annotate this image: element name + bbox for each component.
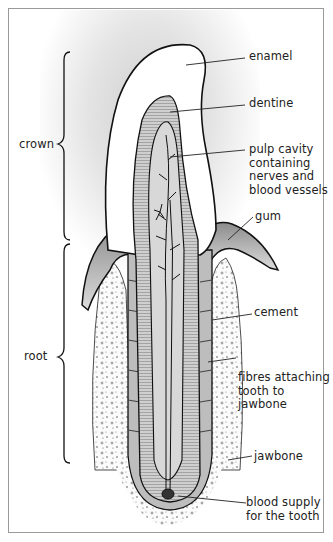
crown-label: crown [19, 138, 54, 152]
gum-label: gum [255, 210, 281, 224]
jawbone-label: jawbone [254, 450, 303, 464]
fibres-label: fibres attaching tooth to jawbone [238, 371, 330, 412]
cement-label: cement [254, 306, 298, 320]
enamel-label: enamel [249, 50, 292, 64]
pulp-label: pulp cavity containing nerves and blood … [249, 143, 328, 197]
dentine-label: dentine [249, 97, 293, 111]
blood-supply-label: blood supply for the tooth [246, 496, 321, 523]
blood-supply-entry [162, 489, 174, 499]
crown-brace [58, 52, 70, 240]
root-label: root [24, 350, 47, 364]
root-brace [58, 244, 70, 463]
